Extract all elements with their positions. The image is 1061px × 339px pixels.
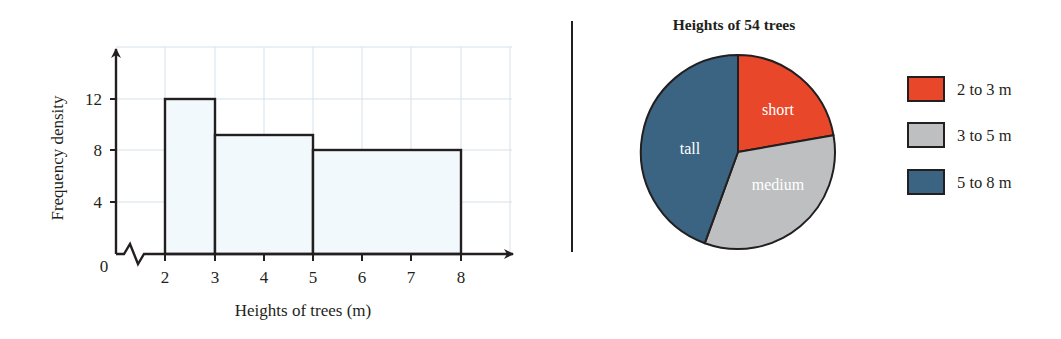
- x-tick-label-4: 4: [260, 268, 269, 287]
- x-tick-label-6: 6: [358, 268, 367, 287]
- y-tick-label-8: 8: [94, 141, 103, 160]
- legend-item-3-to-5: 3 to 5 m: [908, 123, 1012, 147]
- x-tick-label-5: 5: [309, 268, 318, 287]
- legend: 2 to 3 m 3 to 5 m 5 to 8 m: [908, 77, 1012, 194]
- bar-2-to-3: [165, 99, 215, 254]
- bar-3-to-5: [215, 135, 313, 254]
- x-tick-label-3: 3: [211, 268, 220, 287]
- legend-item-2-to-3: 2 to 3 m: [908, 77, 1012, 101]
- legend-label: 3 to 5 m: [957, 126, 1012, 145]
- x-tick-label-8: 8: [457, 268, 466, 287]
- pie-label-tall: tall: [680, 140, 701, 157]
- legend-item-5-to-8: 5 to 8 m: [908, 170, 1012, 194]
- legend-label: 2 to 3 m: [957, 80, 1012, 99]
- legend-swatch-gray: [908, 123, 944, 147]
- y-tick-label-4: 4: [94, 193, 103, 212]
- pie-label-short: short: [762, 101, 795, 118]
- legend-swatch-blue: [908, 170, 944, 194]
- figure: 12 8 4 0 2 3 4 5 6 7 8 Heights of trees …: [0, 0, 1061, 339]
- pie-chart: Heights of 54 trees short medium tall: [641, 16, 835, 249]
- legend-label: 5 to 8 m: [957, 173, 1012, 192]
- x-axis-title: Heights of trees (m): [235, 301, 371, 320]
- bar-5-to-8: [313, 150, 461, 254]
- legend-swatch-red: [908, 77, 944, 101]
- y-axis-title: Frequency density: [48, 95, 67, 221]
- pie-title: Heights of 54 trees: [673, 16, 795, 33]
- origin-label: 0: [100, 257, 109, 276]
- x-tick-label-2: 2: [161, 268, 170, 287]
- y-tick-label-12: 12: [85, 90, 102, 109]
- x-axis-break: [116, 244, 165, 264]
- x-tick-label-7: 7: [407, 268, 416, 287]
- pie-label-medium: medium: [752, 176, 805, 193]
- histogram: 12 8 4 0 2 3 4 5 6 7 8 Heights of trees …: [48, 47, 513, 320]
